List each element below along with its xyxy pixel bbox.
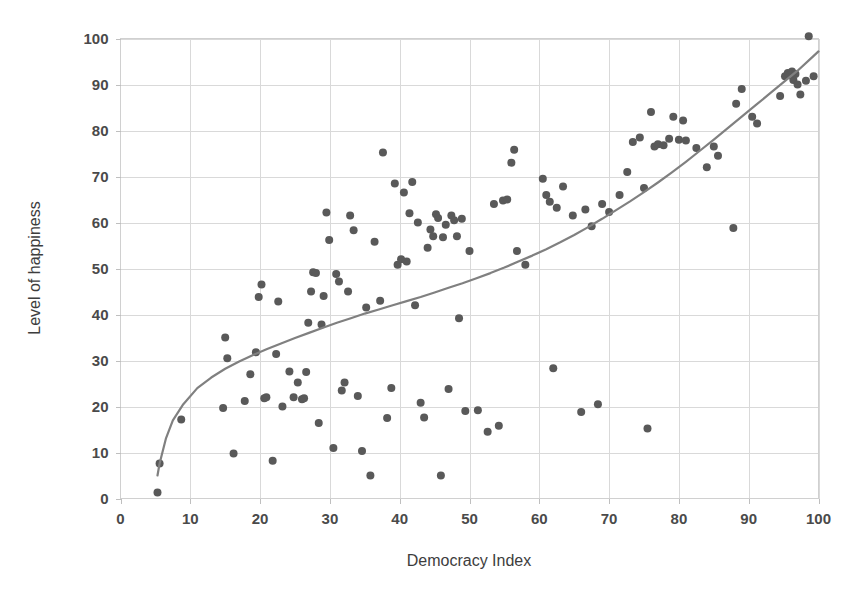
x-tick-label: 40 — [391, 510, 408, 527]
data-point — [643, 425, 651, 433]
scatter-chart: 0102030405060708090100 01020304050607080… — [0, 0, 868, 603]
data-point — [341, 379, 349, 387]
data-point — [679, 116, 687, 124]
data-point — [703, 163, 711, 171]
data-point — [322, 208, 330, 216]
y-tick-label: 0 — [100, 490, 108, 507]
data-point — [577, 408, 585, 416]
data-point — [455, 314, 463, 322]
data-points — [153, 32, 817, 496]
data-point — [376, 297, 384, 305]
data-point — [346, 212, 354, 220]
data-point — [442, 221, 450, 229]
data-point — [549, 364, 557, 372]
data-point — [290, 393, 298, 401]
data-point — [241, 397, 249, 405]
data-point — [246, 370, 254, 378]
data-point — [332, 270, 340, 278]
data-point — [307, 288, 315, 296]
y-tick-marks — [116, 40, 121, 500]
data-point — [325, 236, 333, 244]
data-point — [344, 288, 352, 296]
data-point — [553, 204, 561, 212]
data-point — [539, 175, 547, 183]
x-tick-label: 10 — [182, 510, 199, 527]
data-point — [320, 292, 328, 300]
data-point — [294, 379, 302, 387]
data-point — [546, 198, 554, 206]
x-tick-label: 90 — [740, 510, 757, 527]
data-point — [315, 419, 323, 427]
x-tick-label: 80 — [671, 510, 688, 527]
data-point — [559, 183, 567, 191]
data-point — [391, 179, 399, 187]
y-tick-label: 50 — [92, 260, 109, 277]
data-point — [387, 384, 395, 392]
data-point — [153, 489, 161, 497]
data-point — [262, 393, 270, 401]
data-point — [647, 108, 655, 116]
data-point — [371, 238, 379, 246]
data-point — [660, 141, 668, 149]
data-point — [285, 368, 293, 376]
data-point — [450, 216, 458, 224]
chart-page: 0102030405060708090100 01020304050607080… — [0, 0, 868, 603]
y-tick-label: 10 — [92, 444, 109, 461]
data-point — [616, 191, 624, 199]
data-point — [424, 244, 432, 252]
data-point — [503, 196, 511, 204]
y-tick-label: 80 — [92, 122, 109, 139]
data-point — [223, 354, 231, 362]
x-tick-label: 70 — [601, 510, 618, 527]
data-point — [636, 133, 644, 141]
x-axis-tick-labels: 0102030405060708090100 — [116, 510, 831, 527]
y-tick-label: 30 — [92, 352, 109, 369]
data-point — [414, 219, 422, 227]
data-point — [411, 301, 419, 309]
data-point — [269, 457, 277, 465]
data-point — [417, 399, 425, 407]
data-point — [408, 178, 416, 186]
data-point — [796, 91, 804, 99]
data-point — [669, 113, 677, 121]
data-point — [732, 100, 740, 108]
y-tick-label: 70 — [92, 168, 109, 185]
data-point — [675, 136, 683, 144]
data-point — [350, 226, 358, 234]
data-point — [594, 400, 602, 408]
data-point — [581, 206, 589, 214]
data-point — [453, 232, 461, 240]
data-point — [445, 385, 453, 393]
x-tick-label: 100 — [806, 510, 831, 527]
data-point — [420, 414, 428, 422]
data-point — [466, 247, 474, 255]
data-point — [738, 85, 746, 93]
trend-line — [157, 51, 818, 475]
data-point — [278, 403, 286, 411]
data-point — [710, 143, 718, 151]
data-point — [362, 304, 370, 312]
data-point — [510, 146, 518, 154]
y-tick-label: 40 — [92, 306, 109, 323]
data-point — [490, 200, 498, 208]
data-point — [629, 138, 637, 146]
data-point — [257, 281, 265, 289]
gridlines — [121, 39, 820, 499]
data-point — [434, 214, 442, 222]
x-tick-label: 0 — [116, 510, 124, 527]
data-point — [335, 277, 343, 285]
y-tick-label: 20 — [92, 398, 109, 415]
data-point — [802, 77, 810, 85]
data-point — [358, 447, 366, 455]
data-point — [219, 404, 227, 412]
data-point — [405, 209, 413, 217]
data-point — [272, 350, 280, 358]
data-point — [403, 258, 411, 266]
data-point — [437, 472, 445, 480]
data-point — [495, 422, 503, 430]
data-point — [366, 472, 374, 480]
y-tick-label: 100 — [83, 30, 108, 47]
data-point — [521, 261, 529, 269]
data-point — [776, 92, 784, 100]
data-point — [383, 414, 391, 422]
